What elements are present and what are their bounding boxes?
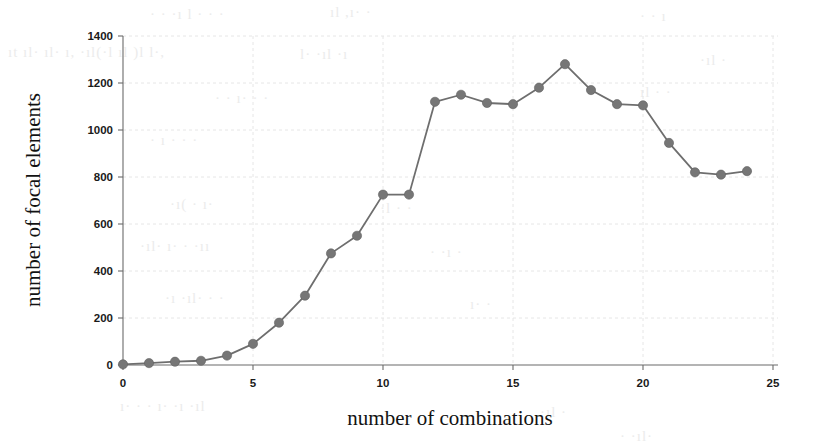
y-tick-label: 200 xyxy=(94,312,113,324)
data-point-marker xyxy=(196,356,205,365)
data-series xyxy=(118,60,751,369)
data-point-marker xyxy=(404,190,413,199)
data-point-marker xyxy=(612,100,621,109)
data-point-marker xyxy=(378,190,387,199)
scanned-figure-page: · · ·ı l · · · ıl ,ı· · · · ı ıt ıl· ıl·… xyxy=(0,0,817,448)
data-point-marker xyxy=(274,318,283,327)
grid-lines xyxy=(123,36,778,365)
data-point-marker xyxy=(742,167,751,176)
y-axis xyxy=(118,36,123,365)
y-tick-label: 600 xyxy=(94,218,113,230)
data-point-marker xyxy=(534,83,543,92)
x-tick-label: 25 xyxy=(767,377,780,389)
series-line-focal-elements xyxy=(123,64,747,364)
data-point-marker xyxy=(300,291,309,300)
data-point-marker xyxy=(144,359,153,368)
data-point-marker xyxy=(508,100,517,109)
x-axis xyxy=(123,365,778,370)
y-axis-title: number of focal elements xyxy=(21,93,45,307)
y-tick-label: 800 xyxy=(94,171,113,183)
data-point-marker xyxy=(456,90,465,99)
x-tick-label: 10 xyxy=(377,377,390,389)
data-point-marker xyxy=(482,98,491,107)
data-point-marker xyxy=(638,101,647,110)
data-point-marker xyxy=(170,357,179,366)
data-point-marker xyxy=(560,60,569,69)
x-axis-title: number of combinations xyxy=(347,406,552,430)
data-point-marker xyxy=(326,249,335,258)
y-tick-label: 1000 xyxy=(87,124,113,136)
x-tick-label: 0 xyxy=(120,377,126,389)
data-point-marker xyxy=(248,339,257,348)
data-point-marker xyxy=(716,170,725,179)
data-point-marker xyxy=(430,97,439,106)
data-point-marker xyxy=(222,351,231,360)
series-markers xyxy=(118,60,751,369)
data-point-marker xyxy=(664,138,673,147)
x-tick-label: 20 xyxy=(637,377,650,389)
data-point-marker xyxy=(118,360,127,369)
line-chart: 0200400600800100012001400 0510152025 num… xyxy=(0,0,817,448)
y-tick-label: 0 xyxy=(107,359,113,371)
x-tick-label: 5 xyxy=(250,377,257,389)
y-tick-label: 1200 xyxy=(87,77,113,89)
y-tick-label: 400 xyxy=(94,265,113,277)
x-tick-label: 15 xyxy=(507,377,520,389)
xtick-labels: 0510152025 xyxy=(120,377,780,389)
data-point-marker xyxy=(352,231,361,240)
data-point-marker xyxy=(586,85,595,94)
data-point-marker xyxy=(690,168,699,177)
y-tick-label: 1400 xyxy=(87,30,113,42)
ytick-labels: 0200400600800100012001400 xyxy=(87,30,113,371)
